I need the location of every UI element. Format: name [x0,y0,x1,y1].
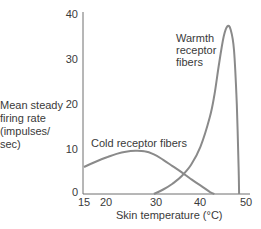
y-tick-20: 20 [58,98,78,111]
warmth-receptor-annotation: Warmth receptor fibers [176,32,216,68]
x-tick-15: 15 [72,196,96,209]
y-tick-30: 30 [58,53,78,66]
annotation-line: receptor [176,44,216,56]
y-axis-label-line: (impulses/ [0,125,70,138]
x-tick-50: 50 [234,196,258,209]
firing-rate-chart: Mean steady firing rate (impulses/ sec) … [0,0,261,229]
x-tick-30: 30 [144,196,168,209]
x-axis-label: Skin temperature (°C) [116,209,223,222]
y-tick-40: 40 [58,8,78,21]
x-tick-20: 20 [94,196,118,209]
cold-receptor-annotation: Cold receptor fibers [91,137,187,150]
x-tick-40: 40 [188,196,212,209]
annotation-line: Warmth [176,32,216,44]
y-tick-10: 10 [58,143,78,156]
y-axis-label-line: firing rate [0,112,70,125]
annotation-line: fibers [176,56,216,68]
